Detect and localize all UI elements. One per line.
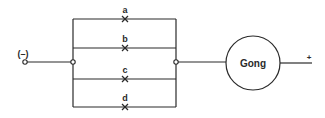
switch-a: a: [73, 5, 176, 22]
gong-label: Gong: [240, 58, 266, 69]
negative-terminal-label: (–): [18, 49, 29, 59]
switch-c: c: [73, 65, 176, 82]
switch-d: d: [73, 93, 176, 110]
circuit-diagram: (–) a b: [0, 0, 325, 118]
switch-d-label: d: [122, 93, 128, 103]
gong: Gong: [226, 36, 280, 90]
switch-a-label: a: [122, 5, 128, 15]
switch-c-label: c: [122, 65, 127, 75]
right-junction-node: [174, 60, 178, 64]
switch-b: b: [73, 34, 176, 51]
negative-terminal: (–): [18, 49, 72, 64]
negative-terminal-node: [23, 60, 27, 64]
switch-b-label: b: [122, 34, 128, 44]
positive-terminal-label: +: [307, 53, 312, 62]
parallel-switch-bank: a b c d: [71, 5, 178, 110]
positive-terminal: +: [280, 53, 312, 63]
left-junction-node: [71, 60, 75, 64]
